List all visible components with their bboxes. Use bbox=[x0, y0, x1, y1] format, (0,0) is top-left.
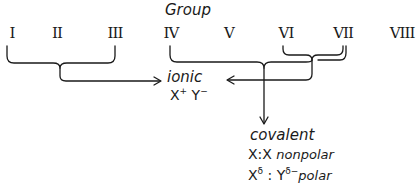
arrow-to-ionic-right bbox=[228, 60, 312, 80]
nonpolar-example: X:X nonpolar bbox=[248, 146, 334, 162]
covalent-label: covalent bbox=[250, 126, 314, 144]
brace-groups-i-iii bbox=[7, 46, 115, 68]
ionic-label: ionic bbox=[167, 68, 202, 86]
brace-groups-iv-vii bbox=[170, 46, 312, 68]
polar-example: Xδ : Yδ−polar bbox=[248, 166, 332, 183]
ionic-formula: X+ Y− bbox=[170, 86, 208, 103]
arrow-to-ionic-left bbox=[60, 68, 160, 81]
brace-groups-vi-vii bbox=[283, 46, 343, 60]
connector-lines bbox=[0, 0, 420, 186]
bonding-diagram: Group I II III IV V VI VII VIII ionic X+… bbox=[0, 0, 420, 186]
